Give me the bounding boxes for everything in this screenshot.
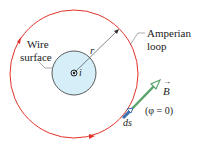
radius-label: r bbox=[90, 44, 94, 56]
amperian-label-leader bbox=[130, 33, 145, 45]
amperian-label-line2: loop bbox=[147, 40, 167, 52]
wire-label-line1: Wire bbox=[27, 38, 49, 50]
amperian-label-line1: Amperian bbox=[147, 27, 191, 39]
field-B-vector-mark: → bbox=[163, 76, 171, 88]
ampere-law-diagram: Wire surface Amperian loop r i B → ds (φ… bbox=[0, 0, 205, 146]
current-label: i bbox=[79, 67, 82, 79]
diagram-graphics bbox=[0, 0, 205, 146]
phi-label: (φ = 0) bbox=[145, 105, 173, 117]
wire-label-line2: surface bbox=[20, 51, 52, 63]
ds-label: ds bbox=[123, 117, 132, 129]
